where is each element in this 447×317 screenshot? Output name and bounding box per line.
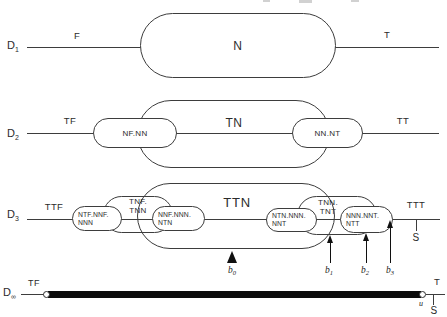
limit-set-bar <box>48 291 421 298</box>
crop-artifact <box>351 0 359 2</box>
capsule-N: N <box>140 13 336 78</box>
nested-intervals-diagram: D1 F T N D2 TF TT TN NF.NN NN.NT D3 TTF … <box>0 0 447 317</box>
baseline-dinf-left <box>21 294 45 295</box>
label-line2: TNN <box>129 206 146 215</box>
b1-label: b1 <box>325 265 333 276</box>
crop-artifact <box>299 0 312 3</box>
level-label-d3: D3 <box>7 208 19 222</box>
interval-label-T-inf: T <box>428 276 446 287</box>
bar-left-endcap <box>43 291 50 298</box>
s-label-dinf: S <box>425 305 443 316</box>
capsule-NN-NT: NN.NT <box>292 118 363 148</box>
baseline-dinf-right <box>426 294 445 295</box>
label-line2: TNT <box>320 207 336 216</box>
b0-label: b0 <box>228 265 236 276</box>
interval-label-TF: TF <box>55 115 85 126</box>
label-line2: NNN <box>78 219 93 227</box>
interval-label-TT: TT <box>388 115 418 126</box>
s-label-d3: S <box>406 232 426 243</box>
u-label: u <box>419 299 423 308</box>
s-tick-d3 <box>416 220 417 231</box>
capsule-TNN-TNT-label: TNN. TNT <box>297 198 359 216</box>
interval-label-F: F <box>62 30 92 41</box>
label-line2: NTN <box>158 219 172 227</box>
interval-label-TTT: TTT <box>401 199 431 210</box>
level-letter: D <box>7 127 15 139</box>
interval-label-TF-inf: TF <box>21 278 47 288</box>
level-letter: D <box>7 208 15 220</box>
level-subscript: 2 <box>15 134 19 141</box>
level-label-d1: D1 <box>7 39 19 53</box>
b3-arrow-stem <box>390 227 391 263</box>
capsule-TNF-TNN-label: TNF. TNN <box>103 197 173 215</box>
capsule-NF-NN-label: NF.NN <box>122 129 147 138</box>
b-subscript: 0 <box>233 269 236 276</box>
b-subscript: 3 <box>391 269 394 276</box>
capsule-TN-label: TN <box>218 116 250 130</box>
b-subscript: 1 <box>330 269 333 276</box>
level-label-dinf: D∞ <box>3 286 16 300</box>
level-subscript: 3 <box>15 215 19 222</box>
b-subscript: 2 <box>366 269 369 276</box>
label-line1: TNN. <box>318 198 338 207</box>
label-line1: TNF. <box>129 197 147 206</box>
b1-arrow-stem <box>330 242 331 263</box>
level-subscript: ∞ <box>11 293 16 300</box>
capsule-TTN-label: TTN <box>218 195 256 210</box>
crop-artifact <box>263 0 270 2</box>
b0-arrowhead-icon <box>227 251 237 263</box>
interval-label-T: T <box>372 29 402 40</box>
level-label-d2: D2 <box>7 127 19 141</box>
label-line2: NNT <box>272 220 286 228</box>
capsule-N-label: N <box>233 39 242 53</box>
capsule-NN-NT-label: NN.NT <box>315 129 341 138</box>
level-subscript: 1 <box>15 46 19 53</box>
level-letter: D <box>7 39 15 51</box>
interval-label-TTF: TTF <box>39 201 69 212</box>
b2-label: b2 <box>361 265 369 276</box>
b2-arrow-stem <box>366 240 367 263</box>
label-line2: NTT <box>346 220 360 228</box>
capsule-NF-NN: NF.NN <box>93 118 177 148</box>
bar-right-endcap <box>419 291 426 298</box>
b3-label: b3 <box>386 265 394 276</box>
s-tick-dinf <box>433 294 434 305</box>
level-letter: D <box>3 286 11 298</box>
